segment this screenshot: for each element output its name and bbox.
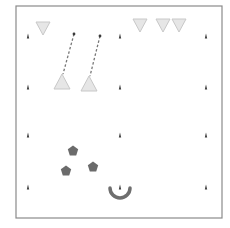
marker-icon <box>27 133 29 138</box>
cone-down-icon <box>156 19 170 32</box>
marker-icon <box>205 133 207 138</box>
marker-icon <box>27 185 29 190</box>
movement-paths <box>63 33 101 76</box>
marker-icon <box>205 34 207 39</box>
dashed-path <box>90 36 100 76</box>
marker-icon <box>205 185 207 190</box>
dashed-path <box>63 34 74 74</box>
cones-up <box>54 74 97 91</box>
player-pentagon-icon <box>68 146 78 156</box>
cone-up-icon <box>54 74 70 89</box>
cone-up-icon <box>81 76 97 91</box>
path-start-dot <box>73 33 76 36</box>
field-markers <box>27 34 207 190</box>
marker-icon <box>119 185 121 190</box>
cone-down-icon <box>133 19 147 32</box>
path-start-dot <box>99 35 102 38</box>
marker-icon <box>119 85 121 90</box>
cone-down-icon <box>36 22 50 35</box>
marker-icon <box>119 133 121 138</box>
marker-icon <box>27 85 29 90</box>
cones-down <box>36 19 186 35</box>
player-pentagon-icon <box>61 166 71 176</box>
marker-icon <box>119 34 121 39</box>
player-pentagon-icon <box>88 162 98 172</box>
marker-icon <box>205 85 207 90</box>
marker-icon <box>27 34 29 39</box>
drill-diagram <box>0 0 230 228</box>
players <box>61 146 98 176</box>
cone-down-icon <box>172 19 186 32</box>
